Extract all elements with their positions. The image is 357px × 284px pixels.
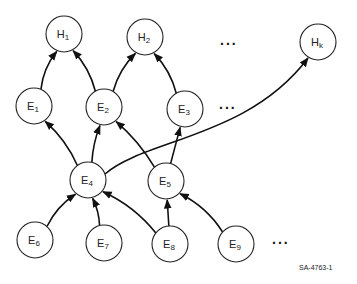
edge-e4-to-e1: [45, 121, 77, 165]
node-e6: E6: [17, 222, 53, 258]
node-e4: E4: [70, 162, 106, 198]
node-e7: E7: [86, 225, 122, 261]
nodes-layer: H1H2HkE1E2E3E4E5E6E7E8E9: [16, 16, 336, 262]
node-h1: H1: [46, 16, 82, 52]
edge-e5-to-e2: [116, 122, 154, 168]
edge-e4-to-e2: [92, 126, 100, 163]
edge-e2-to-h2: [113, 53, 135, 91]
edge-e9-to-e5: [180, 194, 222, 232]
edge-e4-to-hk: [105, 58, 308, 174]
figure-label: SA-4763-1: [299, 264, 333, 271]
edge-e3-to-h2: [154, 54, 176, 94]
node-e5: E5: [148, 163, 184, 199]
edge-e6-to-e4: [47, 194, 76, 226]
diagram-canvas: H1H2HkE1E2E3E4E5E6E7E8E9 ... ... ... SA-…: [0, 0, 357, 284]
ellipsis-h-row: ...: [220, 32, 238, 48]
node-e8: E8: [152, 226, 188, 262]
edge-e2-to-h1: [73, 51, 95, 92]
edge-e1-to-h1: [41, 52, 57, 90]
edge-e8-to-e5: [167, 200, 169, 226]
node-e9: E9: [218, 226, 254, 262]
node-e2: E2: [86, 89, 122, 125]
node-e3: E3: [167, 91, 203, 127]
edge-e7-to-e4: [93, 198, 100, 225]
node-h2: H2: [127, 19, 163, 55]
ellipsis-e-row-bottom: ...: [272, 231, 290, 247]
edge-e5-to-e3: [171, 127, 181, 163]
ellipsis-e-row-top: ...: [219, 96, 237, 112]
node-hk: Hk: [300, 24, 336, 60]
edges-layer: [41, 51, 308, 233]
node-e1: E1: [16, 88, 52, 124]
